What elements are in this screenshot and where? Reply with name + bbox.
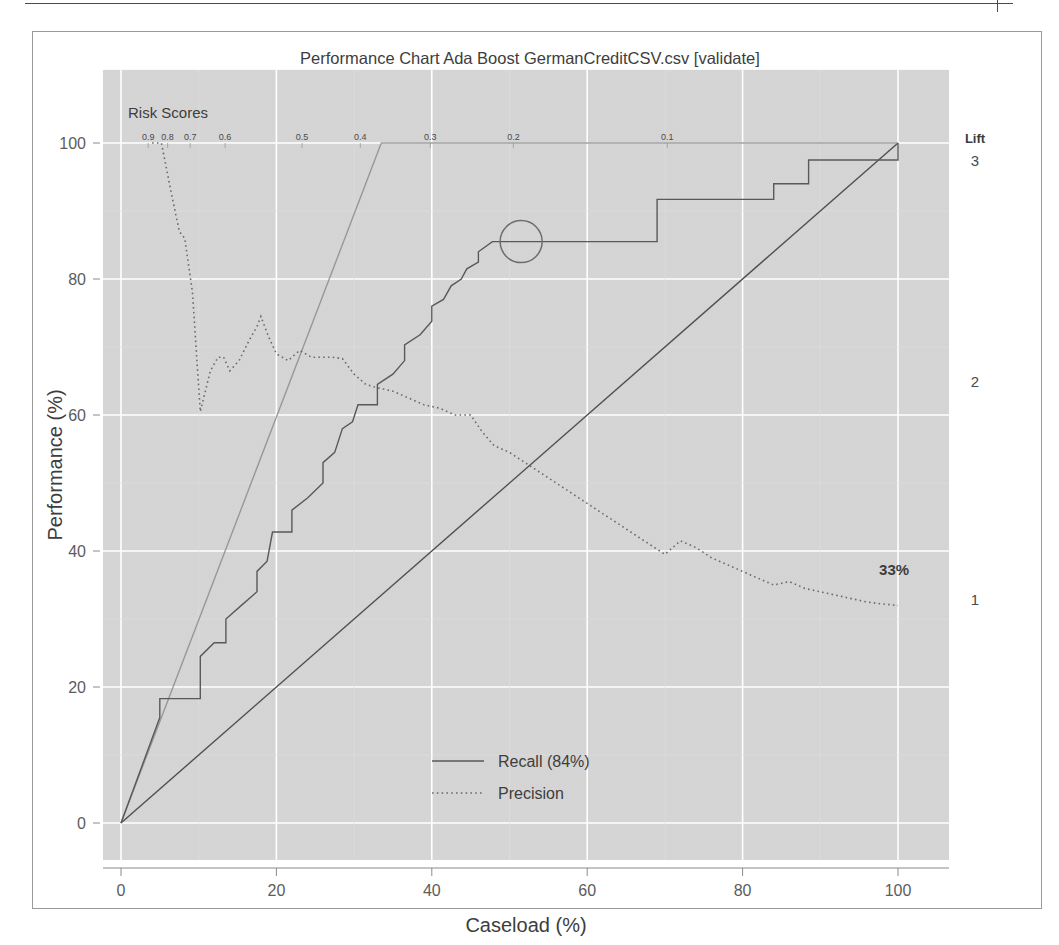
y-tick-label: 20 xyxy=(68,679,86,696)
risk-score-tick-label: 0.3 xyxy=(424,132,437,142)
risk-score-tick-label: 0.9 xyxy=(142,132,155,142)
lift-tick-label: 3 xyxy=(971,152,979,169)
y-tick-label: 80 xyxy=(68,271,86,288)
risk-score-tick-label: 0.4 xyxy=(354,132,367,142)
legend-label: Recall (84%) xyxy=(498,753,590,770)
x-tick-label: 100 xyxy=(885,882,912,899)
risk-score-tick-label: 0.7 xyxy=(184,132,197,142)
y-tick-label: 100 xyxy=(59,135,86,152)
y-tick-label: 40 xyxy=(68,543,86,560)
annotation-label: 33% xyxy=(879,561,909,578)
risk-score-tick-label: 0.1 xyxy=(661,132,674,142)
lift-axis: Lift321 xyxy=(965,131,986,608)
risk-score-tick-label: 0.6 xyxy=(219,132,232,142)
risk-score-tick-label: 0.2 xyxy=(507,132,520,142)
risk-scores-title: Risk Scores xyxy=(128,104,208,121)
x-axis-title: Caseload (%) xyxy=(465,914,586,936)
risk-score-tick-label: 0.5 xyxy=(296,132,309,142)
lift-tick-label: 2 xyxy=(971,373,979,390)
x-tick-label: 80 xyxy=(734,882,752,899)
y-axis-title: Performance (%) xyxy=(44,389,66,540)
performance-chart-canvas: 020406080100020406080100Caseload (%)Perf… xyxy=(0,0,1059,945)
x-tick-label: 60 xyxy=(578,882,596,899)
x-tick-label: 20 xyxy=(268,882,286,899)
y-tick-label: 60 xyxy=(68,407,86,424)
risk-score-tick-label: 0.8 xyxy=(161,132,174,142)
y-tick-label: 0 xyxy=(77,815,86,832)
chart-title: Performance Chart Ada Boost GermanCredit… xyxy=(300,49,760,67)
x-tick-label: 0 xyxy=(117,882,126,899)
lift-tick-label: 1 xyxy=(971,591,979,608)
performance-chart: 020406080100020406080100Caseload (%)Perf… xyxy=(0,0,1059,945)
x-tick-label: 40 xyxy=(423,882,441,899)
lift-title: Lift xyxy=(965,131,986,146)
legend-label: Precision xyxy=(498,785,564,802)
